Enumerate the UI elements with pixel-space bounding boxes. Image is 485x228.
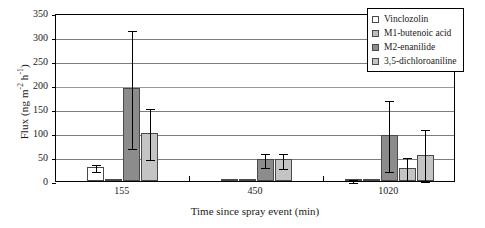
legend-swatch-icon [372, 16, 379, 23]
legend-label: 3,5-dichloroaniline [384, 56, 457, 66]
error-bar-cap [421, 182, 430, 183]
bar-chart-figure: Flux (ng m-2 h-1) 050100150200250300350 … [0, 0, 485, 228]
x-axis-tick-label: 155 [82, 185, 162, 197]
category-separator [189, 176, 190, 181]
error-bar-cap [349, 183, 358, 184]
y-axis-tickmark [52, 183, 56, 184]
y-axis-tick-label: 50 [20, 153, 48, 163]
legend-label: Vinclozolin [384, 14, 428, 24]
y-axis-tick-label: 200 [20, 81, 48, 91]
y-axis-tick-label: 350 [20, 9, 48, 19]
legend-swatch-icon [372, 58, 379, 65]
legend-swatch-icon [372, 44, 379, 51]
y-axis-tick-label: 250 [20, 57, 48, 67]
category-separator [323, 176, 324, 181]
legend-label: M1-butenoic acid [384, 28, 451, 38]
y-axis-tick-label: 0 [20, 177, 48, 187]
legend-swatch-icon [372, 30, 379, 37]
legend-item: M2-enanilide [372, 40, 457, 54]
x-axis-title: Time since spray event (min) [55, 205, 455, 217]
legend-item: M1-butenoic acid [372, 26, 457, 40]
y-axis-tick-label: 150 [20, 105, 48, 115]
chart-legend: VinclozolinM1-butenoic acidM2-enanilide3… [367, 8, 464, 72]
x-axis-tick-label: 450 [215, 185, 295, 197]
y-axis-tick-label: 100 [20, 129, 48, 139]
x-axis-tick-labels: 1554501020 [55, 185, 455, 199]
legend-label: M2-enanilide [384, 42, 435, 52]
y-axis-tick-labels: 050100150200250300350 [20, 14, 48, 182]
x-axis-tick-label: 1020 [348, 185, 428, 197]
legend-item: 3,5-dichloroaniline [372, 54, 457, 68]
y-axis-tick-label: 300 [20, 33, 48, 43]
legend-item: Vinclozolin [372, 12, 457, 26]
